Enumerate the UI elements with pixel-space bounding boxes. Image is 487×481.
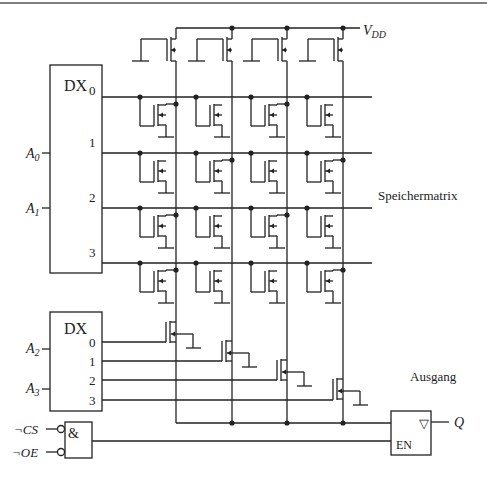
a0-label: A0 [25,146,40,163]
arrow-icon [326,169,330,174]
pullup-transistor-3 [299,28,343,61]
arrow-icon [159,113,163,118]
a1-label: A1 [25,201,40,218]
memory-cell-2-1 [193,205,230,248]
pullup-transistor-2 [243,28,287,61]
row-decoder-output-3: 3 [89,245,96,260]
arrow-icon [270,224,274,229]
memory-cell-3-1 [193,260,230,303]
arrow-icon [270,279,274,284]
bus-junction-3 [340,420,345,425]
row-decoder-output-1: 1 [89,135,96,150]
column-select-transistor-3 [102,378,368,405]
bit-junction [173,267,178,272]
memory-cell-0-0 [137,94,178,137]
matrix-label: Speichermatrix [378,188,458,203]
row-decoder-label: DX [64,77,88,94]
arrow-icon [159,169,163,174]
vdd-junction-3 [340,25,345,30]
vdd-junction-1 [229,25,234,30]
arrow-icon [326,224,330,229]
memory-cell-1-1 [193,150,234,193]
arrow-icon [159,224,163,229]
output-label: Ausgang [410,369,457,384]
memory-cell-2-2 [248,205,289,248]
a3-label: A3 [25,381,40,398]
col-decoder-output-2: 2 [89,373,96,388]
memory-cell-3-2 [248,260,285,303]
row-decoder-output-0: 0 [89,83,96,98]
memory-cell-1-2 [248,150,285,193]
col-decoder-output-0: 0 [89,335,96,350]
col-decoder-label: DX [64,320,88,337]
memory-cell-0-3 [304,94,341,137]
memory-cell-1-3 [304,150,345,193]
and-gate-label: & [68,426,79,441]
rom-circuit-diagram: DX 0123 A0 A1 DX 0123 A2 A3 VDD Speicher… [0,0,487,481]
arrow-icon [326,279,330,284]
column-select-transistor-0 [102,321,201,348]
bit-junction [284,212,289,217]
memory-cell-0-2 [248,94,289,137]
vdd-junction-2 [284,25,289,30]
bit-junction [340,157,345,162]
arrow-icon [326,113,330,118]
pullup-transistor-0 [132,28,176,61]
oe-label: ¬OE [12,445,38,460]
arrow-icon [270,169,274,174]
oe-inversion-bubble [58,449,65,456]
column-select-transistor-2 [102,359,312,386]
bit-junction [173,101,178,106]
bus-junction-1 [229,420,234,425]
vdd-label: VDD [363,23,387,40]
bit-junction [229,157,234,162]
row-decoder-output-2: 2 [89,190,96,205]
memory-cell-0-1 [193,94,230,137]
col-decoder-output-1: 1 [89,354,96,369]
bit-junction [173,212,178,217]
arrow-icon [215,224,219,229]
col-decoder-output-3: 3 [89,393,96,408]
bus-junction-2 [284,420,289,425]
memory-cell-1-0 [137,150,174,193]
memory-cell-2-0 [137,205,178,248]
buffer-symbol: ▽ [419,416,429,431]
memory-cell-3-0 [137,260,178,303]
arrow-icon [215,279,219,284]
cs-label: ¬CS [14,422,38,437]
bit-junction [340,267,345,272]
output-q-label: Q [454,415,464,430]
cs-inversion-bubble [58,426,65,433]
memory-cell-3-3 [304,260,345,303]
buffer-enable-label: EN [396,438,412,452]
arrow-icon [215,113,219,118]
arrow-icon [270,113,274,118]
arrow-icon [215,169,219,174]
column-select-transistor-1 [102,340,257,367]
arrow-icon [159,279,163,284]
pullup-transistor-1 [188,28,232,61]
bit-junction [284,101,289,106]
a2-label: A2 [25,341,40,358]
memory-cell-2-3 [304,205,341,248]
